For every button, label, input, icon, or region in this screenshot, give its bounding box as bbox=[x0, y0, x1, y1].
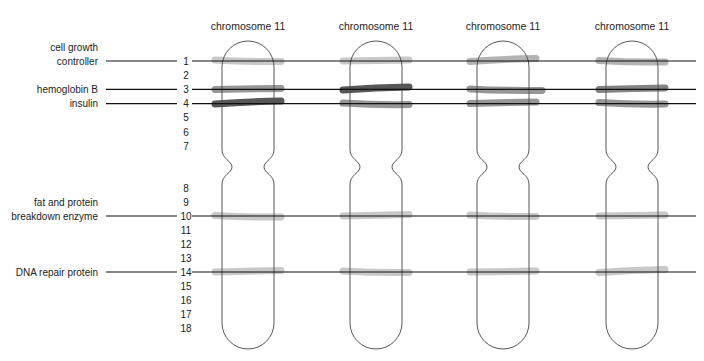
row-number: 15 bbox=[180, 281, 192, 292]
row-number: 13 bbox=[180, 253, 192, 264]
gene-label: hemoglobin B bbox=[37, 84, 98, 95]
gene-label: fat and proteinbreakdown enzyme bbox=[11, 197, 98, 222]
gene-labels-layer: cell growthcontrollerhemoglobin Binsulin… bbox=[11, 42, 98, 278]
chromosome-titles-layer: chromosome 11chromosome 11chromosome 11c… bbox=[211, 20, 670, 32]
row-number: 14 bbox=[180, 267, 192, 278]
row-number: 6 bbox=[183, 127, 189, 138]
gene-label: DNA repair protein bbox=[16, 267, 98, 278]
row-number: 8 bbox=[183, 183, 189, 194]
row-number: 5 bbox=[183, 112, 189, 123]
row-number: 11 bbox=[181, 225, 192, 236]
row-number: 10 bbox=[180, 211, 192, 222]
gene-label-text: insulin bbox=[70, 98, 98, 109]
row-number: 7 bbox=[183, 141, 189, 152]
chromosomes-layer bbox=[222, 41, 658, 349]
gene-label-text: controller bbox=[57, 56, 99, 67]
bands-layer bbox=[215, 59, 665, 273]
row-number: 3 bbox=[183, 84, 189, 95]
chromosome-title: chromosome 11 bbox=[595, 20, 670, 32]
chromosome-diagram: 123456789101112131415161718 cell growthc… bbox=[0, 0, 704, 361]
row-number: 2 bbox=[183, 70, 189, 81]
row-number: 4 bbox=[183, 98, 189, 109]
gene-label-text: breakdown enzyme bbox=[11, 211, 98, 222]
row-number: 12 bbox=[180, 239, 192, 250]
gene-label-text: fat and protein bbox=[34, 197, 98, 208]
row-number: 1 bbox=[183, 56, 189, 67]
row-number: 18 bbox=[180, 323, 192, 334]
chromosome-title: chromosome 11 bbox=[211, 20, 286, 32]
chromosome-title: chromosome 11 bbox=[339, 20, 414, 32]
gene-label: cell growthcontroller bbox=[50, 42, 98, 67]
row-number: 16 bbox=[180, 295, 192, 306]
row-numbers-layer: 123456789101112131415161718 bbox=[180, 56, 192, 334]
row-number: 9 bbox=[183, 197, 189, 208]
chromosome-title: chromosome 11 bbox=[466, 20, 541, 32]
gene-label-text: cell growth bbox=[50, 42, 98, 53]
row-number: 17 bbox=[180, 309, 192, 320]
gene-label: insulin bbox=[70, 98, 98, 109]
gene-label-text: hemoglobin B bbox=[37, 84, 98, 95]
gene-label-text: DNA repair protein bbox=[16, 267, 98, 278]
